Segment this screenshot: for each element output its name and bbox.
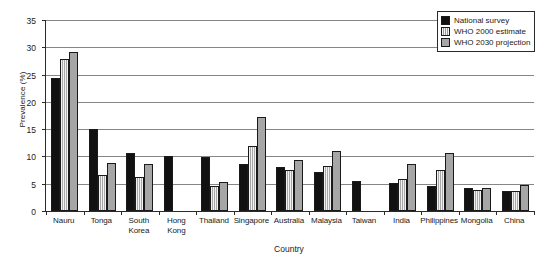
y-tick-label: 30 xyxy=(27,43,36,53)
bar xyxy=(239,164,248,211)
y-tick-label: 20 xyxy=(27,98,36,108)
bar xyxy=(502,191,511,211)
x-tick-label: Taiwan xyxy=(345,216,383,236)
x-tick-mark xyxy=(234,211,235,215)
bar xyxy=(51,78,60,211)
bar xyxy=(135,177,144,211)
bar xyxy=(248,146,257,211)
bar-group xyxy=(196,20,234,211)
bar xyxy=(210,186,219,211)
x-tick-mark xyxy=(196,211,197,215)
x-axis-labels: NauruTongaSouth KoreaHong KongThailandSi… xyxy=(45,216,533,236)
x-tick-label: Malaysia xyxy=(308,216,346,236)
bar xyxy=(323,166,332,211)
x-tick-label: China xyxy=(495,216,533,236)
bar xyxy=(389,183,398,211)
legend-item-who-2000-estimate: WHO 2000 estimate xyxy=(441,26,530,37)
x-tick-mark xyxy=(84,211,85,215)
x-axis-title: Country xyxy=(45,244,533,254)
x-tick-label: South Korea xyxy=(120,216,158,236)
x-tick-label: Philippines xyxy=(420,216,458,236)
x-tick-mark xyxy=(346,211,347,215)
legend-item-label: WHO 2030 projection xyxy=(454,38,530,47)
bar xyxy=(144,164,153,211)
legend-item-national-survey: National survey xyxy=(441,15,530,26)
bar-group xyxy=(309,20,347,211)
bar xyxy=(107,163,116,211)
x-tick-label: Mongolia xyxy=(458,216,496,236)
bar-group xyxy=(159,20,197,211)
bar xyxy=(352,181,361,211)
x-tick-mark xyxy=(496,211,497,215)
legend-swatch-icon xyxy=(441,16,450,25)
y-tick-label: 0 xyxy=(31,207,36,217)
bar-group xyxy=(346,20,384,211)
x-tick-mark xyxy=(384,211,385,215)
bar-group xyxy=(121,20,159,211)
bar xyxy=(445,153,454,211)
bar xyxy=(482,188,491,211)
x-tick-mark xyxy=(46,211,47,215)
bar-group xyxy=(234,20,272,211)
x-tick-label: Tonga xyxy=(83,216,121,236)
bar xyxy=(89,129,98,211)
x-tick-mark xyxy=(159,211,160,215)
bar xyxy=(219,182,228,211)
x-tick-mark xyxy=(121,211,122,215)
bar xyxy=(201,157,210,211)
bar-group xyxy=(384,20,422,211)
y-axis-title: Prevalence (%) xyxy=(18,40,27,160)
bar xyxy=(398,179,407,211)
x-tick-label: Singapore xyxy=(233,216,271,236)
y-tick-label: 15 xyxy=(27,125,36,135)
bar xyxy=(436,170,445,211)
legend-swatch-icon xyxy=(441,38,450,47)
bar xyxy=(294,160,303,211)
x-tick-label: Hong Kong xyxy=(158,216,196,236)
bar xyxy=(285,170,294,211)
y-tick-label: 5 xyxy=(31,180,36,190)
bar-group xyxy=(46,20,84,211)
legend: National survey WHO 2000 estimate WHO 20… xyxy=(437,11,535,52)
x-tick-mark xyxy=(459,211,460,215)
bar-chart: Prevalence (%) 05101520253035 NauruTonga… xyxy=(0,0,558,266)
bar xyxy=(427,186,436,211)
bar xyxy=(69,52,78,211)
x-tick-label: Thailand xyxy=(195,216,233,236)
bar xyxy=(126,153,135,211)
x-tick-label: Australia xyxy=(270,216,308,236)
x-tick-mark xyxy=(309,211,310,215)
legend-item-label: WHO 2000 estimate xyxy=(454,27,526,36)
bar-group xyxy=(84,20,122,211)
y-tick-label: 10 xyxy=(27,152,36,162)
legend-item-label: National survey xyxy=(454,16,509,25)
x-tick-label: Nauru xyxy=(45,216,83,236)
bar xyxy=(511,191,520,211)
bar xyxy=(276,167,285,211)
x-tick-label: India xyxy=(383,216,421,236)
bar xyxy=(98,175,107,211)
bar xyxy=(464,188,473,211)
x-tick-mark xyxy=(271,211,272,215)
bar xyxy=(473,190,482,211)
y-tick-label: 25 xyxy=(27,71,36,81)
bar xyxy=(407,164,416,211)
x-tick-mark xyxy=(421,211,422,215)
legend-swatch-icon xyxy=(441,27,450,36)
bar xyxy=(332,151,341,211)
bar xyxy=(314,172,323,211)
bar xyxy=(520,185,529,211)
bar-group xyxy=(271,20,309,211)
x-tick-mark xyxy=(534,211,535,215)
legend-item-who-2030-projection: WHO 2030 projection xyxy=(441,37,530,48)
bar xyxy=(164,156,173,211)
bar xyxy=(257,117,266,211)
y-tick-label: 35 xyxy=(27,16,36,26)
bar xyxy=(60,59,69,211)
